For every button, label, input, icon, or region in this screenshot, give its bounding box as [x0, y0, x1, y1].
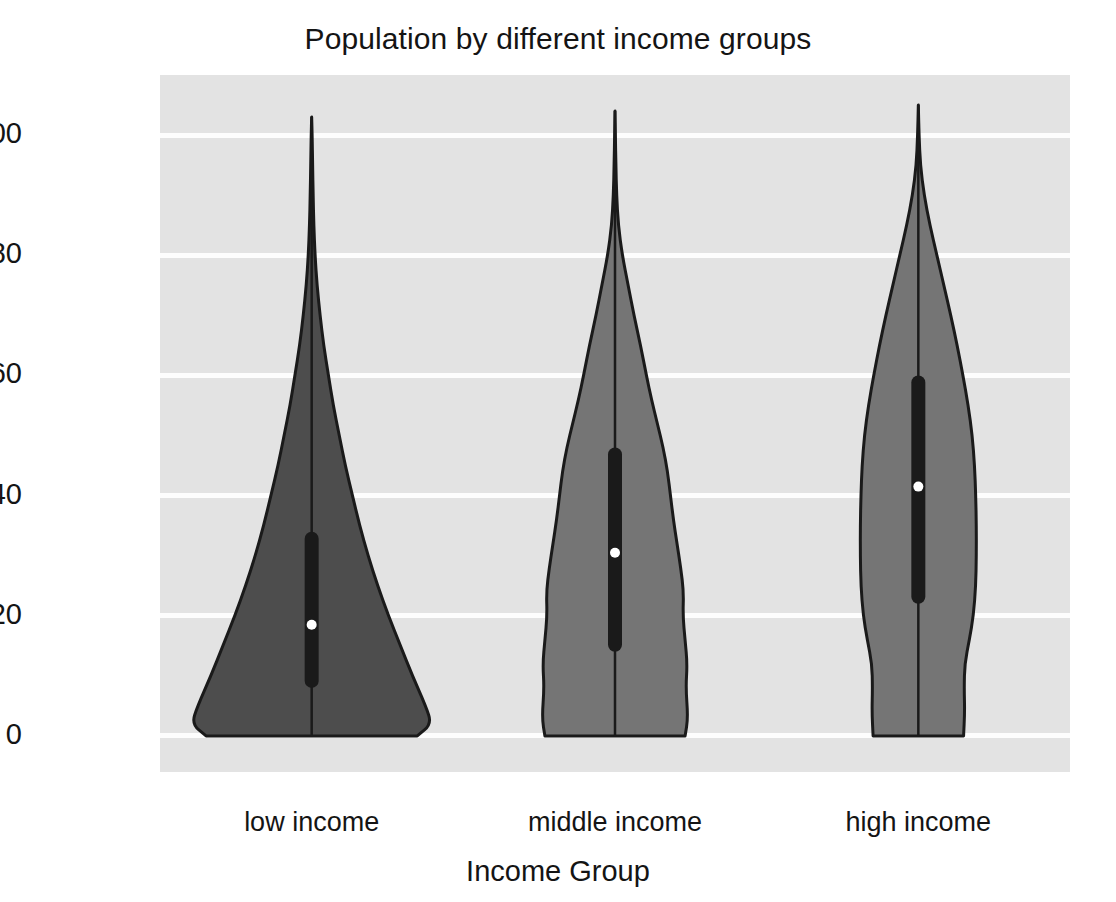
- y-tick-label: 100: [0, 119, 22, 148]
- median-marker: [610, 548, 620, 558]
- x-axis-label: Income Group: [0, 855, 1116, 888]
- x-tick-label: low income: [152, 807, 472, 838]
- x-tick-label: high income: [758, 807, 1078, 838]
- x-tick-label: middle income: [455, 807, 775, 838]
- y-tick-label: 0: [0, 720, 22, 749]
- y-tick-label: 40: [0, 480, 22, 509]
- y-tick-label: 60: [0, 359, 22, 388]
- plot-area: [160, 75, 1070, 772]
- y-tick-label: 20: [0, 600, 22, 629]
- page-title: Population by different income groups: [0, 22, 1116, 56]
- violin-iqr-box: [305, 532, 319, 688]
- violin-chart-figure: Population by different income groups Ag…: [0, 0, 1116, 902]
- median-marker: [913, 482, 923, 492]
- violin-shapes: [160, 75, 1070, 772]
- median-marker: [307, 620, 317, 630]
- y-tick-label: 80: [0, 239, 22, 268]
